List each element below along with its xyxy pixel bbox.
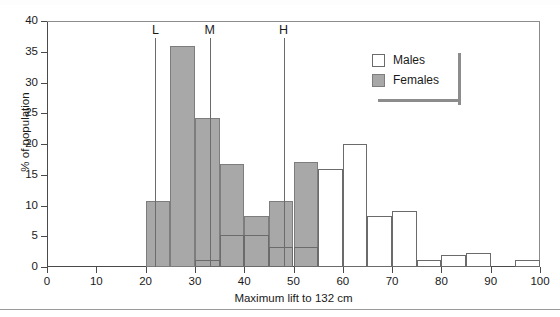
reference-line-l [155,38,156,267]
x-tick-label: 90 [471,275,511,288]
x-tick [343,267,344,273]
x-tick [96,267,97,273]
bar-female [146,201,171,267]
bar-male [269,247,294,267]
x-tick-label: 0 [27,275,67,288]
reference-label-m: M [198,24,222,37]
x-tick [244,267,245,273]
reference-line-h [284,38,285,267]
footer-divider [0,309,560,310]
y-tick [41,236,47,237]
y-tick-label: 5 [4,230,38,242]
histogram-figure: 0510152025303540 0102030405060708090100 … [0,0,560,317]
bar-male [466,253,491,267]
x-tick [146,267,147,273]
legend-item-females: Females [372,72,458,89]
x-tick-label: 70 [372,275,412,288]
plot-frame-right [539,21,540,267]
bar-female [195,118,220,267]
reference-line-m [210,38,211,267]
y-tick-label: 35 [4,46,38,58]
y-tick [41,52,47,53]
bar-male [441,255,466,267]
bar-male [318,169,343,267]
x-tick [47,267,48,273]
bar-male [195,260,220,267]
plot-frame-top [47,21,540,22]
y-tick-label: 40 [4,15,38,27]
bar-male [244,235,269,267]
bar-male [515,260,540,267]
reference-label-h: H [272,24,296,37]
x-tick-label: 60 [323,275,363,288]
legend: Males Females [372,47,458,99]
x-tick [441,267,442,273]
filled-square-icon [372,74,385,87]
y-tick [41,21,47,22]
legend-shadow-right [458,53,461,105]
legend-item-males: Males [372,52,458,69]
legend-label-females: Females [393,74,439,87]
y-axis-title: % of population [19,62,31,202]
bar-male [343,144,368,267]
x-tick [294,267,295,273]
bar-male [220,235,245,267]
x-tick-label: 80 [421,275,461,288]
top-margin-artifact [0,0,560,5]
y-tick-label: 0 [4,261,38,273]
y-tick [41,206,47,207]
y-tick [41,144,47,145]
reference-label-l: L [143,24,167,37]
x-axis-title: Maximum lift to 132 cm [47,292,540,304]
x-tick-label: 30 [175,275,215,288]
legend-shadow-bottom [378,99,461,102]
bar-male [392,211,417,267]
x-tick [540,267,541,273]
x-tick-label: 50 [274,275,314,288]
bar-male [367,216,392,267]
x-tick [491,267,492,273]
x-tick [195,267,196,273]
x-tick-label: 10 [76,275,116,288]
x-tick-label: 20 [126,275,166,288]
bar-male [417,260,442,267]
legend-label-males: Males [393,54,425,67]
y-tick [41,175,47,176]
x-tick-label: 40 [224,275,264,288]
bar-male [294,247,319,267]
bar-female [170,46,195,267]
x-tick [392,267,393,273]
y-tick [41,113,47,114]
y-tick [41,83,47,84]
x-tick-label: 100 [520,275,560,288]
open-square-icon [372,54,385,67]
